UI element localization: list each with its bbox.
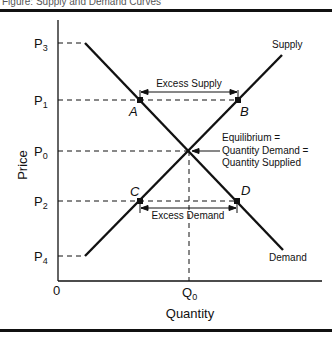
equilibrium-label-line2: Quantity Demand = [222, 145, 309, 156]
origin-label: 0 [53, 283, 60, 298]
point-d-label: D [241, 183, 250, 198]
x-axis-title: Quantity [166, 306, 215, 321]
demand-label: Demand [269, 252, 307, 263]
price-label-p1: P1 [34, 93, 48, 110]
price-label-p3: P3 [34, 36, 48, 53]
price-label-p2: P2 [34, 194, 48, 211]
excess-supply-arrow [140, 90, 238, 99]
point-b-label: B [240, 104, 249, 119]
point-a-label: A [128, 104, 138, 119]
y-axis-title: Price [15, 150, 30, 180]
equilibrium-label-line3: Quantity Supplied [222, 157, 301, 168]
excess-demand-label: Excess Demand [152, 210, 225, 221]
excess-supply-label: Excess Supply [156, 78, 222, 89]
supply-label: Supply [272, 39, 303, 50]
price-label-p4: P4 [34, 249, 48, 266]
point-d-marker [234, 198, 240, 204]
price-label-p0: P0 [34, 144, 48, 161]
point-c-label: C [130, 184, 140, 199]
supply-demand-diagram: P3 P1 P0 P2 P4 Price Quantity 0 Q0 Suppl… [0, 0, 332, 338]
quantity-label-q0: Q0 [182, 285, 197, 302]
equilibrium-arrow [192, 149, 220, 154]
equilibrium-label-line1: Equilibrium = [222, 132, 280, 143]
